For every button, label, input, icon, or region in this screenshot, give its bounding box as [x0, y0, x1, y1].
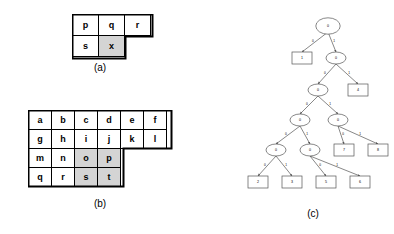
grid-row: sx: [72, 35, 150, 56]
figure-c-tree: 01010101010101 010040000782356: [232, 8, 394, 208]
grid-cell-empty: [143, 167, 167, 187]
figure-c-caption: (c): [283, 208, 343, 219]
tree-edge-label: 1: [359, 132, 361, 136]
tree-node-label: 0: [327, 24, 329, 28]
grid-row: pqr: [72, 14, 150, 35]
tree-internal-node: 0: [266, 144, 286, 156]
tree-internal-node: 0: [308, 84, 328, 96]
tree-edge: [276, 126, 300, 144]
tree-node-label: 7: [343, 148, 345, 152]
grid-cell: q: [28, 167, 52, 187]
grid-row: abcdef: [28, 110, 166, 129]
tree-node-label: 5: [325, 180, 327, 184]
grid-row: qrst: [28, 167, 166, 186]
tree-internal-node: 0: [290, 114, 310, 126]
tree-internal-node: 0: [326, 52, 346, 64]
grid-cell: x: [98, 35, 125, 57]
grid-row: mnop: [28, 148, 166, 167]
grid-cell: r: [51, 167, 75, 187]
grid-cell: c: [74, 110, 98, 130]
tree-node-label: 0: [299, 118, 301, 122]
tree-leaf-node: 1: [292, 52, 312, 64]
grid-cell: q: [98, 14, 125, 36]
grid-cell: d: [97, 110, 121, 130]
tree-leaf-node: 6: [350, 176, 370, 188]
tree-node-label: 0: [317, 88, 319, 92]
grid-cell: l: [143, 129, 167, 149]
figure-a-caption: (a): [70, 62, 130, 73]
grid-b: abcdefghijklmnopqrst: [28, 110, 166, 186]
tree-edge-label: 1: [336, 163, 338, 167]
tree-edge-label: 1: [329, 102, 331, 106]
tree-edge-label: 0: [285, 132, 287, 136]
tree-edge: [300, 126, 310, 144]
tree-edge-label: 0: [319, 163, 321, 167]
grid-cell: k: [120, 129, 144, 149]
tree-edge-label: 1: [333, 39, 335, 43]
grid-cell: i: [74, 129, 98, 149]
grid-cell-empty: [124, 35, 151, 57]
grid-cell: g: [28, 129, 52, 149]
tree-internal-node: 0: [328, 114, 348, 126]
grid-cell: s: [74, 167, 98, 187]
tree-edge-label: 1: [348, 71, 350, 75]
tree-internal-node: 0: [316, 18, 340, 34]
tree-leaf-node: 3: [282, 176, 302, 188]
tree-edge: [310, 156, 360, 176]
tree-edge: [258, 156, 276, 176]
tree-edge-label: 0: [312, 39, 314, 43]
tree-node-label: 6: [359, 180, 361, 184]
tree-nodes: 010040000782356: [248, 18, 388, 188]
tree-edge: [336, 64, 358, 84]
tree-edge: [276, 156, 292, 176]
grid-cell: t: [97, 167, 121, 187]
tree-internal-node: 0: [300, 144, 320, 156]
grid-row: ghijkl: [28, 129, 166, 148]
grid-cell: n: [51, 148, 75, 168]
figure-b-caption: (b): [70, 198, 130, 209]
tree-node-label: 1: [301, 56, 303, 60]
tree-node-label: 0: [335, 56, 337, 60]
tree-edge: [300, 96, 318, 114]
grid-cell: s: [72, 35, 99, 57]
grid-cell-empty: [143, 148, 167, 168]
tree-edge-label: 0: [342, 132, 344, 136]
grid-cell: m: [28, 148, 52, 168]
grid-cell: f: [143, 110, 167, 130]
tree-edge: [302, 32, 328, 52]
grid-cell: p: [97, 148, 121, 168]
tree-edge: [318, 64, 336, 84]
tree-node-label: 0: [275, 148, 277, 152]
grid-cell-empty: [120, 148, 144, 168]
tree-edge-label: 0: [264, 163, 266, 167]
tree-node-label: 3: [291, 180, 293, 184]
grid-cell: e: [120, 110, 144, 130]
tree-node-label: 0: [309, 148, 311, 152]
tree-edge-label: 1: [285, 163, 287, 167]
tree-node-label: 8: [377, 148, 379, 152]
grid-cell: j: [97, 129, 121, 149]
grid-cell: r: [124, 14, 151, 36]
tree-edge-label: 1: [306, 132, 308, 136]
grid-a: pqrsx: [72, 14, 150, 56]
tree-canvas: 01010101010101 010040000782356: [232, 8, 394, 204]
grid-cell: o: [74, 148, 98, 168]
tree-leaf-node: 8: [368, 144, 388, 156]
tree-node-label: 0: [337, 118, 339, 122]
tree-node-label: 2: [257, 180, 259, 184]
grid-cell-empty: [120, 167, 144, 187]
grid-cell: b: [51, 110, 75, 130]
tree-leaf-node: 7: [334, 144, 354, 156]
grid-cell: h: [51, 129, 75, 149]
figure-a: pqrsx: [72, 14, 150, 56]
figure-b: abcdefghijklmnopqrst: [28, 110, 166, 186]
tree-edge-label: 0: [306, 102, 308, 106]
tree-edge-label: 0: [324, 71, 326, 75]
grid-cell: p: [72, 14, 99, 36]
tree-node-label: 4: [357, 88, 359, 92]
grid-cell: a: [28, 110, 52, 130]
tree-edge: [318, 96, 338, 114]
tree-leaf-node: 4: [348, 84, 368, 96]
tree-leaf-node: 2: [248, 176, 268, 188]
tree-leaf-node: 5: [316, 176, 336, 188]
